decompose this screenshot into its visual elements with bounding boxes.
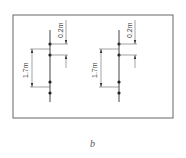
diagram-canvas: 0.2m 1.7m 0.2m 1.7m <box>0 0 186 158</box>
point-dot <box>48 80 51 83</box>
dimension-label-0-2m: 0.2m <box>126 22 133 38</box>
point-dot <box>117 91 120 94</box>
figure-caption: b <box>90 138 95 149</box>
dimension-label-1-7m: 1.7m <box>22 62 29 78</box>
column-2: 0.2m 1.7m <box>91 20 137 102</box>
column-1: 0.2m 1.7m <box>22 20 68 102</box>
point-dot <box>117 80 120 83</box>
dimension-label-0-2m: 0.2m <box>57 22 64 38</box>
dimension-label-1-7m: 1.7m <box>91 62 98 78</box>
point-dot <box>48 91 51 94</box>
